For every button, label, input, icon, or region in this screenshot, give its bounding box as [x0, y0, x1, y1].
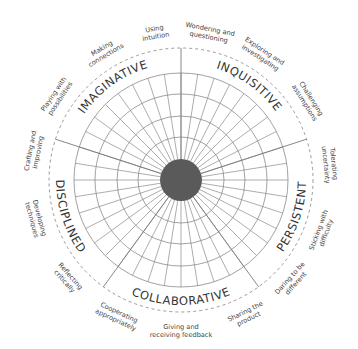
habit-label: Crafting andimproving: [23, 130, 47, 173]
habit-label-line: receiving feedback: [150, 331, 213, 339]
habit-label: Sharing theproduct: [226, 300, 267, 331]
category-label-disciplined: DISCIPLINED: [53, 179, 89, 255]
habit-label: Usingintuition: [140, 23, 170, 43]
habit-label: Playing withpossibilities: [39, 75, 75, 117]
habit-label: Sticking withdifficulty: [308, 209, 338, 254]
habit-label: Exploring andinvestigating: [239, 36, 286, 74]
habit-label: Makingconnections: [83, 34, 126, 68]
habits-wheel: INQUISITIVEPERSISTENTCOLLABORATIVEDISCIP…: [0, 0, 358, 349]
center-hub-disc: [160, 159, 202, 201]
habit-label: Reflectingcritically: [51, 261, 85, 296]
habit-label: Cooperatingappropriately: [94, 300, 141, 333]
habit-label: Toleratinguncertainty: [320, 145, 340, 184]
category-label-imaginative: IMAGINATIVE: [75, 57, 149, 116]
habit-label: Developingtechniques: [23, 199, 48, 239]
category-label-collaborative: COLLABORATIVE: [130, 284, 232, 308]
habit-label-line: Giving and: [163, 323, 199, 331]
center-hub: [160, 159, 202, 201]
category-label-persistent: PERSISTENT: [274, 180, 309, 254]
habit-label: Giving andreceiving feedback: [150, 323, 213, 339]
habit-label: Daring to bedifferent: [273, 260, 312, 301]
section-divider-line: [193, 197, 258, 287]
section-divider-line: [103, 197, 168, 287]
habit-label: Challengingassumptions: [290, 79, 326, 123]
habit-label: Wondering andquestioning: [183, 21, 235, 46]
